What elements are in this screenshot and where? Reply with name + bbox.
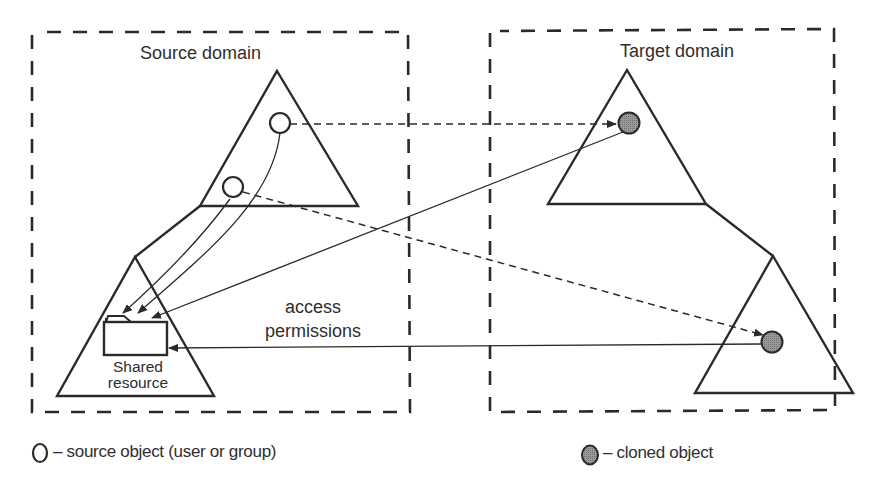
legend-source-object-icon — [33, 444, 47, 462]
diagram-canvas — [0, 0, 896, 497]
permission-arrow-source-2 — [123, 199, 230, 313]
permission-arrow-cloned-1 — [152, 132, 623, 318]
legend-cloned-object-label: – cloned object — [603, 443, 713, 463]
access-permissions-label: access permissions — [248, 295, 378, 343]
access-label-line2: permissions — [248, 319, 378, 343]
source-domain-title: Source domain — [140, 43, 261, 64]
target-tree-link — [706, 204, 773, 256]
cloned-object-1-icon — [619, 113, 640, 134]
source-object-2-icon — [223, 177, 243, 197]
access-label-line1: access — [248, 295, 378, 319]
shared-resource-folder-icon — [104, 316, 167, 355]
source-object-1-icon — [270, 113, 290, 133]
target-domain-title: Target domain — [620, 41, 734, 62]
cloned-object-2-icon — [762, 332, 783, 353]
permission-arrow-cloned-2 — [169, 344, 762, 348]
target-domain-border — [490, 29, 835, 412]
legend-cloned-object-icon — [582, 446, 598, 465]
shared-label-line1: Shared — [92, 359, 184, 375]
source-tree-link — [135, 206, 200, 257]
shared-label-line2: resource — [92, 375, 184, 391]
shared-resource-label: Shared resource — [92, 359, 184, 391]
target-upper-tree-icon — [548, 70, 706, 204]
target-lower-tree-icon — [695, 256, 853, 393]
legend-source-object-label: – source object (user or group) — [53, 442, 276, 462]
permission-arrow-source-1 — [138, 133, 280, 313]
